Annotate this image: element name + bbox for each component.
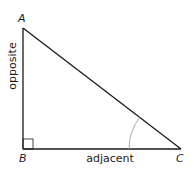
right-angle-marker — [23, 139, 33, 149]
triangle — [23, 28, 181, 149]
right-triangle-diagram: A B C opposite adjacent — [0, 0, 195, 174]
side-label-opposite: opposite — [6, 42, 19, 90]
side-ac-hypotenuse — [23, 28, 181, 149]
vertex-label-c: C — [176, 152, 184, 165]
side-label-adjacent: adjacent — [86, 152, 134, 165]
angle-arc-c — [129, 117, 140, 149]
vertex-label-a: A — [17, 12, 26, 25]
vertex-label-b: B — [19, 152, 27, 165]
